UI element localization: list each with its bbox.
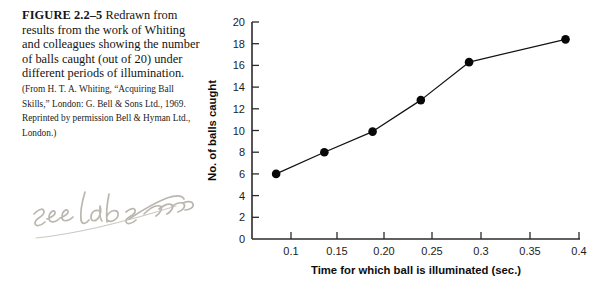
y-tick-label: 18 bbox=[233, 38, 245, 50]
data-point bbox=[417, 96, 426, 105]
x-tick-label: 0.35 bbox=[519, 245, 540, 257]
data-point bbox=[465, 58, 474, 67]
x-axis-title: Time for which ball is illuminated (sec.… bbox=[311, 264, 521, 276]
y-tick-label: 2 bbox=[239, 211, 245, 223]
data-point bbox=[320, 148, 329, 157]
line-chart: 20 18 16 14 12 10 8 6 4 2 0 0.1 0.15 0.2… bbox=[196, 6, 606, 286]
x-tick-label: 0.20 bbox=[373, 245, 394, 257]
figure-number-label: FIGURE 2.2–5 bbox=[22, 8, 102, 22]
y-tick-label: 10 bbox=[233, 125, 245, 137]
x-tick-label: 0.4 bbox=[571, 245, 586, 257]
y-axis-title: No. of balls caught bbox=[206, 80, 218, 181]
y-tick-label: 12 bbox=[233, 103, 245, 115]
y-axis-tick-labels: 20 18 16 14 12 10 8 6 4 2 0 bbox=[233, 16, 245, 245]
y-axis-ticks bbox=[252, 22, 259, 217]
data-series-line bbox=[276, 39, 565, 174]
x-tick-label: 0.1 bbox=[283, 245, 298, 257]
data-point bbox=[272, 170, 281, 179]
x-tick-label: 0.25 bbox=[421, 245, 442, 257]
data-point bbox=[561, 35, 570, 44]
y-tick-label: 0 bbox=[239, 233, 245, 245]
x-axis-ticks bbox=[291, 232, 579, 239]
data-series-markers bbox=[272, 35, 570, 178]
figure-source-credit: (From H. T. A. Whiting, “Acquiring Ball … bbox=[22, 84, 190, 138]
x-tick-label: 0.3 bbox=[473, 245, 488, 257]
data-point bbox=[368, 127, 377, 136]
y-tick-label: 20 bbox=[233, 16, 245, 28]
y-tick-label: 6 bbox=[239, 168, 245, 180]
figure-caption-block: FIGURE 2.2–5 Redrawn from results from t… bbox=[22, 8, 202, 139]
y-tick-label: 8 bbox=[239, 146, 245, 158]
handwritten-note bbox=[26, 178, 206, 240]
x-axis-tick-labels: 0.1 0.15 0.20 0.25 0.3 0.35 0.4 bbox=[283, 245, 586, 257]
y-tick-label: 4 bbox=[239, 190, 245, 202]
y-tick-label: 14 bbox=[233, 81, 245, 93]
figure-caption-text: FIGURE 2.2–5 Redrawn from results from t… bbox=[22, 8, 202, 139]
x-tick-label: 0.15 bbox=[326, 245, 347, 257]
y-tick-label: 16 bbox=[233, 59, 245, 71]
